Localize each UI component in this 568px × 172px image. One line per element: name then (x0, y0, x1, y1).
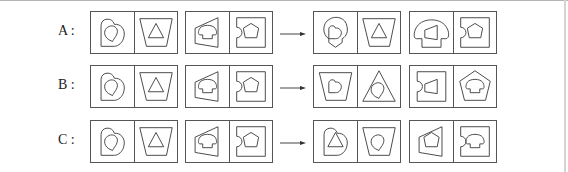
option-row-a[interactable]: A : (0, 11, 560, 55)
cell-trapezoid-with-triangle (134, 66, 177, 107)
right-arrow-icon (280, 141, 306, 145)
answer-pair-1 (313, 11, 401, 54)
cell-notched-with-mushroom (453, 121, 496, 162)
option-row-c[interactable]: C : (0, 120, 560, 164)
notched-square-outer-pentagon-inner-icon (230, 121, 272, 162)
cell-quad-with-mushroom (186, 12, 229, 53)
mushroom-outer-quad-inner-icon (410, 12, 453, 53)
triangle-outer-drop-inner-icon (358, 66, 400, 107)
trapezoid-outer-triangle-inner-icon (135, 121, 177, 162)
cell-quad-with-mushroom (186, 121, 229, 162)
option-label: C : (58, 132, 88, 148)
right-arrow-icon (280, 32, 306, 36)
heart-outer-drop-inner-icon (91, 66, 134, 107)
cell-trapezoid-with-drop (357, 121, 400, 162)
heart-outer-triangle-inner-icon (314, 121, 357, 162)
cell-mushroom-with-quad (410, 12, 453, 53)
question-pair-1 (90, 120, 178, 163)
cell-pentagon-with-mushroom (453, 66, 496, 107)
cell-heart-with-triangle (314, 121, 357, 162)
drop-outer-heart-inner-icon (314, 12, 357, 53)
option-label: B : (58, 77, 88, 93)
cell-notched-with-pentagon (453, 12, 496, 53)
pentagon-outer-mushroom-inner-icon (454, 66, 496, 107)
option-row-b[interactable]: B : (0, 65, 560, 109)
option-label: A : (58, 23, 88, 39)
frame-right-border (564, 0, 566, 172)
cell-quad-with-pentagon (410, 121, 453, 162)
trapezoid-outer-heart-inner-icon (314, 66, 357, 107)
trapezoid-outer-triangle-inner-icon (135, 66, 177, 107)
quad-outer-pentagon-inner-icon (410, 121, 453, 162)
quad-outer-mushroom-inner-icon (186, 12, 229, 53)
notched-square-outer-pentagon-inner-icon (230, 66, 272, 107)
question-pair-2 (185, 65, 273, 108)
cell-heart-with-drop (91, 12, 134, 53)
cell-notched-with-quad (410, 66, 453, 107)
cell-heart-with-drop (91, 66, 134, 107)
trapezoid-outer-drop-inner-icon (358, 121, 400, 162)
cell-trapezoid-with-triangle (134, 12, 177, 53)
quad-outer-mushroom-inner-icon (186, 121, 229, 162)
frame-top-border (0, 0, 568, 1)
notched-square-outer-pentagon-inner-icon (454, 12, 496, 53)
question-pair-2 (185, 120, 273, 163)
trapezoid-outer-triangle-inner-icon (135, 12, 177, 53)
answer-pair-1 (313, 65, 401, 108)
answer-pair-2 (409, 11, 497, 54)
cell-trapezoid-with-triangle (134, 121, 177, 162)
cell-triangle-with-drop (357, 66, 400, 107)
right-arrow-icon (280, 86, 306, 90)
question-pair-2 (185, 11, 273, 54)
heart-outer-drop-inner-icon (91, 12, 134, 53)
answer-pair-1 (313, 120, 401, 163)
heart-outer-drop-inner-icon (91, 121, 134, 162)
cell-notched-with-pentagon (229, 121, 272, 162)
question-pair-1 (90, 65, 178, 108)
cell-drop-with-heart (314, 12, 357, 53)
cell-quad-with-mushroom (186, 66, 229, 107)
trapezoid-outer-triangle-inner-icon (358, 12, 400, 53)
cell-notched-with-pentagon (229, 66, 272, 107)
answer-pair-2 (409, 65, 497, 108)
notched-square-outer-quad-inner-icon (410, 66, 453, 107)
cell-notched-with-pentagon (229, 12, 272, 53)
answer-pair-2 (409, 120, 497, 163)
question-pair-1 (90, 11, 178, 54)
cell-trapezoid-with-triangle (357, 12, 400, 53)
notched-square-outer-pentagon-inner-icon (230, 12, 272, 53)
notched-square-outer-mushroom-inner-icon (454, 121, 496, 162)
quad-outer-mushroom-inner-icon (186, 66, 229, 107)
cell-trapezoid-with-heart (314, 66, 357, 107)
cell-heart-with-drop (91, 121, 134, 162)
